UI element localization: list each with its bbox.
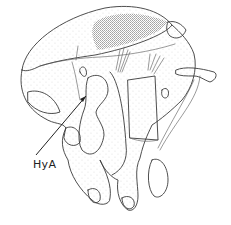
illustration bbox=[0, 0, 231, 225]
label-hya: HyA bbox=[33, 158, 56, 171]
